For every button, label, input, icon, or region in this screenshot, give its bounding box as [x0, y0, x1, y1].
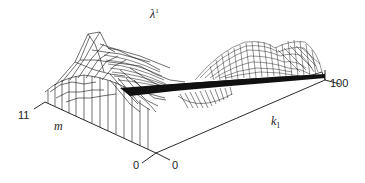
k-min-tick: 0: [172, 160, 178, 171]
z-axis-label: λ1: [150, 8, 159, 20]
k-axis-subscript: 1: [276, 121, 280, 130]
right-ridge-mesh: [195, 40, 322, 80]
front-curtain: [45, 75, 156, 149]
surface-plot: [0, 0, 365, 183]
z-axis-superscript: 1: [155, 7, 159, 15]
underside-hatching: [178, 87, 232, 108]
left-peak-mesh: [50, 32, 185, 112]
k-max-tick: 100: [330, 78, 348, 89]
m-max-tick: 11: [18, 110, 29, 121]
k-axis-label: k1: [271, 115, 280, 130]
m-min-tick: 0: [133, 160, 139, 171]
m-axis-label: m: [54, 120, 63, 132]
